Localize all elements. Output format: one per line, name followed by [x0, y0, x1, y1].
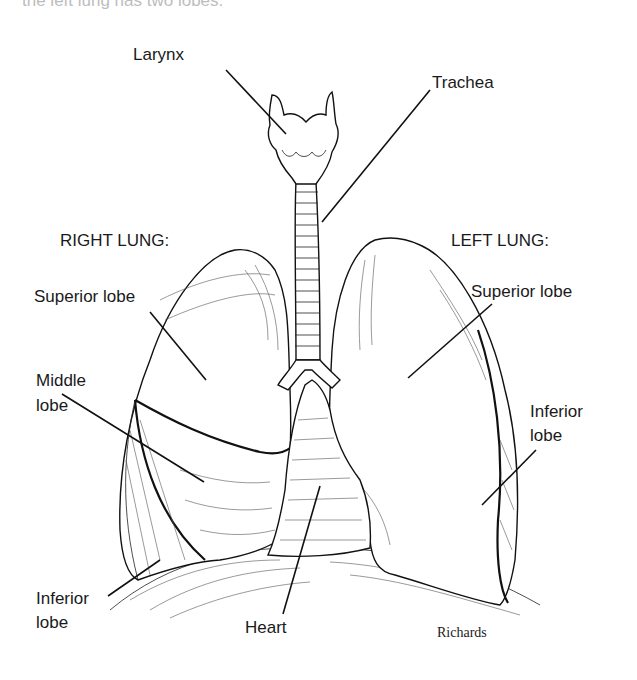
larynx-outline	[268, 92, 338, 184]
caption-fragment: the left lung has two lobes.	[22, 0, 223, 10]
artist-signature: Richards	[437, 625, 487, 640]
label-heart: Heart	[245, 618, 287, 637]
label-right-superior-lobe: Superior lobe	[34, 287, 135, 306]
label-trachea: Trachea	[432, 73, 494, 92]
label-right-middle-lobe-line2: lobe	[36, 396, 68, 415]
label-right-inferior-lobe-line1: Inferior	[36, 589, 89, 608]
leader-trachea	[322, 90, 430, 222]
label-larynx: Larynx	[133, 45, 185, 64]
right-lung-outline	[120, 250, 291, 580]
label-left-lung: LEFT LUNG:	[451, 231, 549, 250]
trachea-outline	[295, 182, 320, 360]
lung-diagram: the left lung has two lobes.	[0, 0, 637, 680]
label-right-inferior-lobe-line2: lobe	[36, 613, 68, 632]
label-left-inferior-lobe-line2: lobe	[530, 426, 562, 445]
label-right-middle-lobe-line1: Middle	[36, 371, 86, 390]
larynx	[268, 92, 338, 184]
label-left-inferior-lobe-line1: Inferior	[530, 402, 583, 421]
right-lung	[120, 250, 291, 580]
label-right-lung: RIGHT LUNG:	[60, 231, 169, 250]
label-left-superior-lobe: Superior lobe	[471, 282, 572, 301]
